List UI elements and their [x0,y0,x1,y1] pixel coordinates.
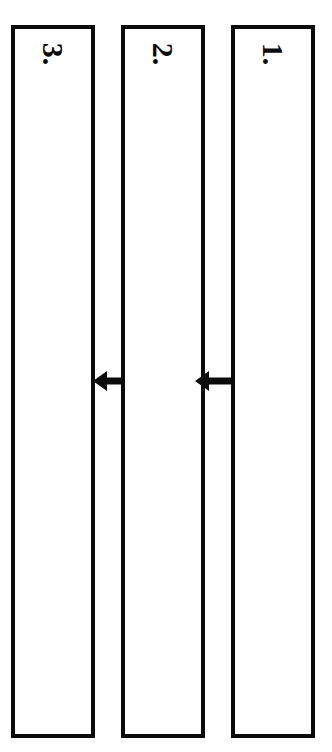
panel-2[interactable]: 2. [121,25,205,738]
diagram-canvas: 1. 2. 3. [0,0,332,752]
panel-3-label: 3. [38,16,68,92]
arrow-left-icon-panel2-to-panel3 [93,369,122,393]
panel-2-body [125,29,201,734]
panel-1-label: 1. [258,16,288,92]
panel-3-body [15,29,91,734]
panel-3[interactable]: 3. [11,25,95,738]
panel-1[interactable]: 1. [231,25,315,738]
panel-1-body [235,29,311,734]
panel-2-label: 2. [148,16,178,92]
